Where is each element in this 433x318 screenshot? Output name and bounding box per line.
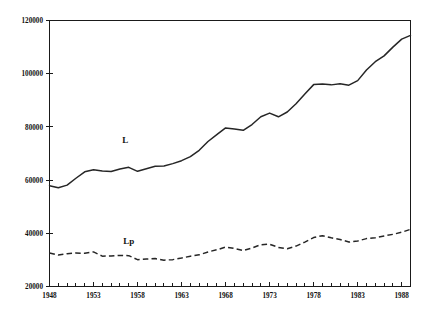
series-annotation-lp: Lp xyxy=(123,236,134,246)
x-tick-label: 1973 xyxy=(262,292,277,300)
y-tick-label: 120000 xyxy=(21,17,43,25)
plot-frame xyxy=(50,21,411,287)
x-tick-label: 1988 xyxy=(395,292,410,300)
line-chart-canvas: 20000400006000080000100000120000 1948195… xyxy=(0,0,433,318)
x-axis-tick-labels: 194819531958196319681973197819831988 xyxy=(42,292,409,300)
x-tick-label: 1978 xyxy=(306,292,321,300)
series-annotations: LLp xyxy=(122,135,134,246)
y-tick-label: 60000 xyxy=(25,177,43,185)
axis-frame xyxy=(50,21,411,287)
x-tick-label: 1953 xyxy=(86,292,101,300)
x-tick-label: 1948 xyxy=(42,292,57,300)
series-line-lp xyxy=(50,229,411,260)
x-tick-label: 1958 xyxy=(130,292,145,300)
x-tick-label: 1963 xyxy=(174,292,189,300)
y-tick-label: 100000 xyxy=(21,70,43,78)
x-tick-label: 1983 xyxy=(350,292,365,300)
data-series-group xyxy=(50,35,411,260)
y-tick-label: 20000 xyxy=(25,283,43,291)
y-tick-label: 40000 xyxy=(25,230,43,238)
series-annotation-l: L xyxy=(122,135,128,145)
x-tick-label: 1968 xyxy=(218,292,233,300)
y-tick-label: 80000 xyxy=(25,124,43,132)
x-axis-ticks xyxy=(50,282,411,287)
series-line-l xyxy=(50,35,411,187)
y-axis-tick-labels: 20000400006000080000100000120000 xyxy=(21,17,43,291)
chart-figure: 20000400006000080000100000120000 1948195… xyxy=(0,0,433,318)
